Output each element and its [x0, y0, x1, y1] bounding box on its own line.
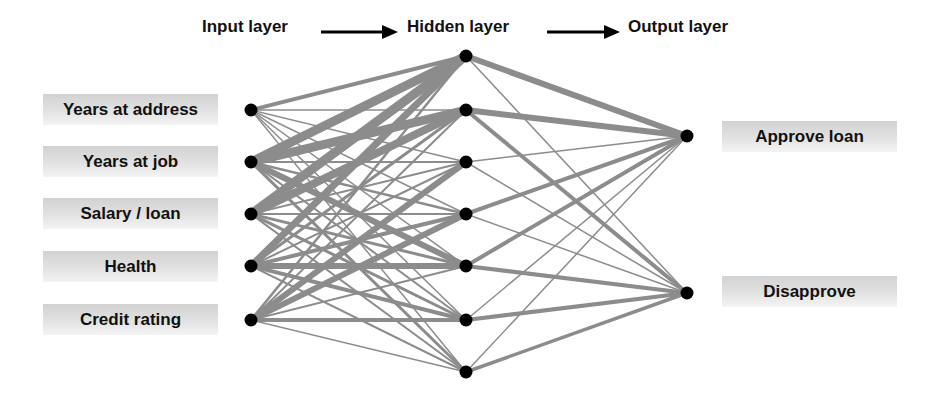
hidden-node: [460, 260, 473, 273]
input-label-health: Health: [43, 251, 218, 282]
input-node: [245, 104, 258, 117]
edge-hidden-output: [466, 136, 687, 320]
input-node: [245, 208, 258, 221]
input-label-years-at-address: Years at address: [43, 94, 218, 125]
hidden-node: [460, 104, 473, 117]
arrow-hidden-to-output: [547, 25, 620, 39]
output-node: [681, 130, 694, 143]
hidden-node: [460, 208, 473, 221]
output-label-disapprove: Disapprove: [722, 276, 897, 307]
edge-input-hidden: [251, 320, 466, 372]
input-label-credit-rating: Credit rating: [43, 304, 218, 335]
hidden-node: [460, 314, 473, 327]
output-label-approve-loan: Approve loan: [722, 121, 897, 152]
input-label-years-at-job: Years at job: [43, 146, 218, 177]
edge-hidden-output: [466, 136, 687, 372]
input-node: [245, 260, 258, 273]
input-node: [245, 314, 258, 327]
arrow-input-to-hidden: [321, 25, 398, 39]
input-node: [245, 156, 258, 169]
output-node: [681, 287, 694, 300]
hidden-node: [460, 156, 473, 169]
edge-input-hidden: [251, 56, 466, 162]
hidden-node: [460, 50, 473, 63]
edge-hidden-output: [466, 266, 687, 293]
hidden-node: [460, 366, 473, 379]
input-label-salary-loan: Salary / loan: [43, 198, 218, 229]
